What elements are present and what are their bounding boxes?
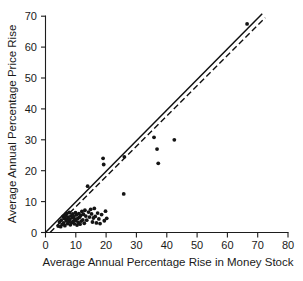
data-point [84, 214, 88, 218]
x-tick-label: 20 [100, 239, 112, 251]
data-point [102, 163, 106, 167]
data-point [155, 147, 159, 151]
data-point [89, 207, 93, 211]
data-point [104, 209, 108, 213]
x-tick-label: 10 [70, 239, 82, 251]
data-point [156, 161, 160, 165]
y-tick-label: 20 [25, 165, 37, 177]
data-point [101, 156, 105, 160]
data-point [93, 215, 97, 219]
scatter-chart-figure: 0 10 20 30 40 50 60 70 0 10 20 30 40 50 … [0, 0, 303, 281]
x-tick-label: 40 [161, 239, 173, 251]
data-point [96, 211, 100, 215]
data-point [95, 221, 99, 225]
x-axis-tick-labels: 0 10 20 30 40 50 60 70 80 [42, 239, 294, 251]
x-tick-label: 60 [221, 239, 233, 251]
x-tick-label: 0 [42, 239, 48, 251]
data-point [81, 218, 85, 222]
data-point [122, 192, 126, 196]
x-tick-label: 30 [130, 239, 142, 251]
data-point [152, 135, 156, 139]
chart-svg: 0 10 20 30 40 50 60 70 0 10 20 30 40 50 … [0, 0, 303, 281]
data-point [98, 222, 102, 226]
data-point [88, 215, 92, 219]
data-point [172, 138, 176, 142]
data-point [90, 212, 94, 216]
data-point [100, 213, 104, 217]
data-point [82, 221, 86, 225]
y-tick-label: 60 [25, 41, 37, 53]
x-tick-label: 80 [282, 239, 294, 251]
y-tick-label: 70 [25, 10, 37, 22]
x-tick-label: 70 [252, 239, 264, 251]
data-point [86, 184, 90, 188]
y-tick-label: 30 [25, 134, 37, 146]
x-tick-label: 50 [191, 239, 203, 251]
y-tick-label: 0 [31, 227, 37, 239]
y-tick-label: 40 [25, 103, 37, 115]
x-axis-title: Average Annual Percentage Rise in Money … [42, 256, 293, 268]
y-tick-label: 50 [25, 72, 37, 84]
y-axis-title: Average Annual Percentage Price Rise [6, 25, 18, 224]
y-tick-label: 10 [25, 196, 37, 208]
data-point [97, 217, 101, 221]
data-point [85, 218, 89, 222]
data-point [92, 206, 96, 210]
data-point [122, 155, 126, 159]
data-point [91, 220, 95, 224]
data-point [105, 216, 109, 220]
data-point [83, 208, 87, 212]
data-point [245, 22, 249, 26]
data-point [68, 211, 72, 215]
